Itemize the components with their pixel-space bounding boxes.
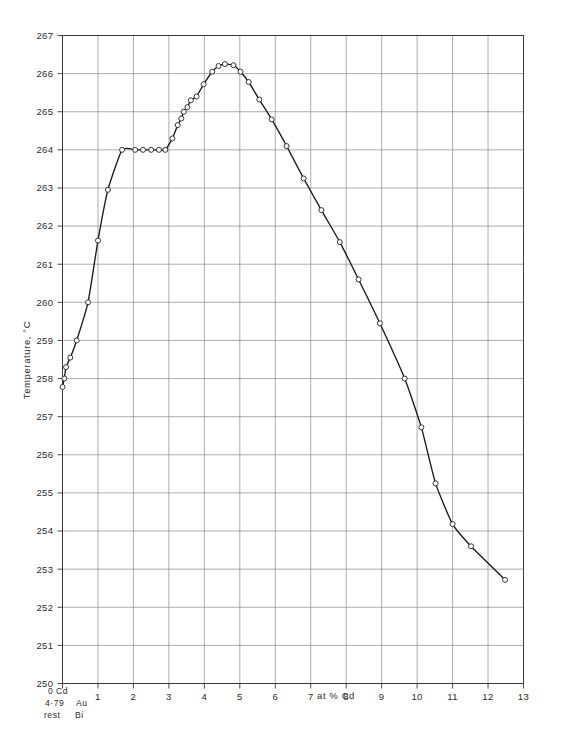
data-point-marker [503, 577, 508, 582]
y-tick-label: 261 [36, 259, 53, 270]
y-axis-title: Temperature, °C [21, 321, 32, 399]
data-point-marker [433, 481, 438, 486]
y-tick-label: 253 [36, 564, 53, 575]
x-tick-label: 4 [202, 691, 208, 702]
data-point-marker [60, 384, 65, 389]
data-point-marker [246, 80, 251, 85]
data-point-marker [269, 117, 274, 122]
composition-note-line1-right: Cd [56, 686, 68, 696]
x-tick-label: 1 [95, 691, 101, 702]
data-point-marker [163, 147, 168, 152]
x-tick-label: 6 [272, 691, 278, 702]
x-tick-label: 13 [518, 691, 529, 702]
data-point-marker [149, 147, 154, 152]
composition-note-line3-right: Bi [75, 710, 84, 720]
x-tick-label: 3 [166, 691, 172, 702]
data-point-marker [156, 147, 161, 152]
data-point-marker [201, 82, 206, 87]
data-point-marker [356, 277, 361, 282]
x-tick-label: 7 [308, 691, 314, 702]
data-point-marker [222, 62, 227, 67]
data-point-marker [141, 147, 146, 152]
data-point-marker [469, 544, 474, 549]
data-point-marker [216, 63, 221, 68]
data-point-marker [95, 238, 100, 243]
data-point-marker [337, 240, 342, 245]
data-point-marker [64, 365, 69, 370]
data-point-marker [120, 147, 125, 152]
y-tick-label: 267 [36, 30, 53, 41]
y-tick-label: 264 [36, 144, 53, 155]
composition-note-line1-left: 0 [48, 686, 53, 696]
data-point-marker [194, 94, 199, 99]
data-point-marker [450, 522, 455, 527]
data-point-marker [170, 136, 175, 141]
y-tick-label: 265 [36, 106, 53, 117]
data-point-marker [181, 109, 186, 114]
y-tick-label: 255 [36, 487, 53, 498]
data-point-marker [284, 144, 289, 149]
data-point-marker [188, 98, 193, 103]
data-point-marker [105, 187, 110, 192]
x-tick-label: 9 [379, 691, 385, 702]
y-tick-label: 263 [36, 182, 53, 193]
composition-note-line3-left: rest [44, 710, 60, 720]
data-point-marker [133, 147, 138, 152]
data-point-marker [419, 425, 424, 430]
y-tick-label: 257 [36, 411, 53, 422]
x-axis-title: at % Cd [317, 690, 355, 701]
y-tick-label: 252 [36, 602, 53, 613]
y-tick-label: 259 [36, 335, 53, 346]
y-tick-label: 256 [36, 449, 53, 460]
y-tick-label: 251 [36, 640, 53, 651]
y-tick-label: 258 [36, 373, 53, 384]
x-tick-label: 2 [131, 691, 137, 702]
data-point-marker [238, 69, 243, 74]
data-point-marker [210, 69, 215, 74]
data-point-marker [257, 97, 262, 102]
x-tick-label: 10 [411, 691, 422, 702]
y-tick-label: 262 [36, 220, 53, 231]
data-point-marker [74, 338, 79, 343]
x-tick-label: 5 [237, 691, 243, 702]
x-tick-label: 12 [482, 691, 493, 702]
data-point-marker [402, 376, 407, 381]
data-point-marker [231, 63, 236, 68]
y-tick-label: 254 [36, 525, 53, 536]
data-point-marker [62, 376, 67, 381]
data-point-marker [86, 300, 91, 305]
composition-note-line2-left: 4·79 [45, 698, 64, 708]
composition-note-line2-right: Au [76, 698, 88, 708]
x-tick-label: 11 [447, 691, 458, 702]
data-point-marker [377, 321, 382, 326]
data-point-marker [301, 176, 306, 181]
data-point-marker [179, 116, 184, 121]
data-point-marker [185, 105, 190, 110]
y-tick-label: 266 [36, 68, 53, 79]
data-point-marker [68, 355, 73, 360]
data-point-marker [319, 208, 324, 213]
data-point-marker [175, 123, 180, 128]
y-tick-label: 260 [36, 297, 53, 308]
chart-container: 12345678910111213 2502512522532542552562… [0, 0, 579, 746]
line-chart: 12345678910111213 2502512522532542552562… [0, 0, 579, 746]
